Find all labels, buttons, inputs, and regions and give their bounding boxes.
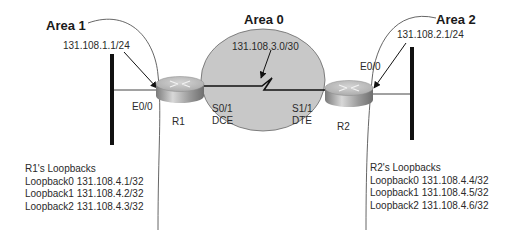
- lan1-network-label: 131.108.1.1/24: [63, 40, 130, 52]
- ospf-network-diagram: Area 1 Area 0 Area 2 131.108.1.1/24 131.…: [0, 0, 514, 242]
- router-r1-icon[interactable]: [156, 77, 204, 104]
- r1-loopback0: Loopback0 131.108.4.1/32: [25, 176, 143, 189]
- router-r1-label: R1: [172, 116, 185, 128]
- area2-label: Area 2: [436, 12, 476, 27]
- area1-label: Area 1: [46, 18, 86, 33]
- r2-loopback0: Loopback0 131.108.4.4/32: [370, 175, 488, 188]
- r1-loopbacks: R1's Loopbacks Loopback0 131.108.4.1/32 …: [25, 163, 143, 213]
- r2-loopbacks-title: R2's Loopbacks: [370, 162, 488, 175]
- r1-loopback1: Loopback1 131.108.4.2/32: [25, 188, 143, 201]
- r2-loopback1: Loopback1 131.108.4.5/32: [370, 187, 488, 200]
- r1-loopback2: Loopback2 131.108.4.3/32: [25, 201, 143, 214]
- area0-label: Area 0: [244, 12, 284, 27]
- r2-loopback2: Loopback2 131.108.4.6/32: [370, 200, 488, 213]
- r2-e0-label: E0/0: [360, 61, 381, 73]
- r2-s1-role: DTE: [292, 115, 312, 127]
- r1-s0-label: S0/1: [212, 103, 233, 115]
- r1-e0-label: E0/0: [132, 101, 153, 113]
- router-r2-icon[interactable]: [325, 81, 373, 108]
- lan1-arrow: [124, 52, 157, 88]
- r1-loopbacks-title: R1's Loopbacks: [25, 163, 143, 176]
- router-r2-label: R2: [337, 121, 350, 133]
- lan2-bus: [410, 47, 414, 140]
- serial-network-label: 131.108.3.0/30: [232, 41, 299, 53]
- lan2-network-label: 131.108.2.1/24: [397, 29, 464, 41]
- r2-loopbacks: R2's Loopbacks Loopback0 131.108.4.4/32 …: [370, 162, 488, 212]
- r1-s0-role: DCE: [212, 115, 233, 127]
- r2-s1-label: S1/1: [292, 103, 313, 115]
- lan1-bus: [110, 54, 114, 145]
